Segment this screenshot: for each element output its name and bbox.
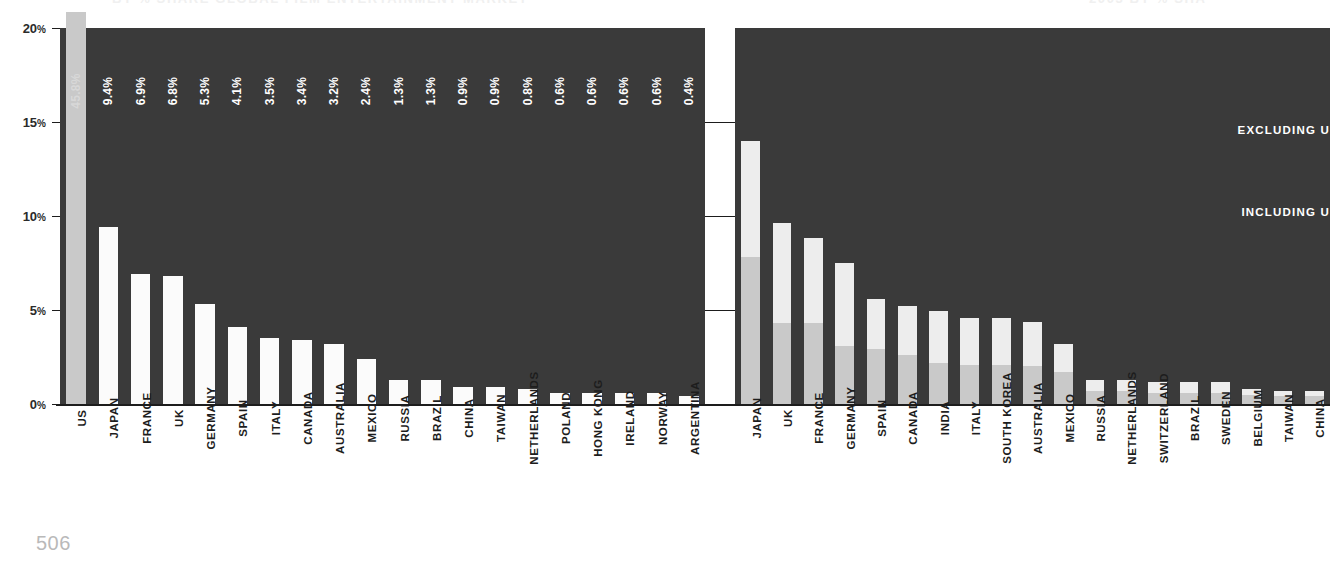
y-axis-tick-5: 5% (30, 303, 46, 318)
bar-value-label: 1.3% (424, 77, 438, 106)
bar-segment-excluding-us (1023, 322, 1042, 366)
category-label-spain: SPAIN (221, 412, 253, 532)
bar-value-label: 1.3% (392, 77, 406, 106)
right-bar-slot (860, 28, 891, 404)
category-label-italy: ITALY (954, 412, 985, 532)
left-chart-plot-area: 45.8%9.4%6.9%6.8%5.3%4.1%3.5%3.4%3.2%2.4… (60, 28, 705, 404)
bar-value-label: 9.4% (101, 77, 115, 106)
category-label-brazil: BRAZIL (415, 412, 447, 532)
bar-segment-including-us (960, 365, 979, 404)
bar-japan (99, 227, 118, 404)
bar-value-label: 0.6% (585, 77, 599, 106)
y-tick-percent-sign: % (37, 306, 46, 317)
category-label-text: HONG KONG (592, 379, 604, 457)
right-bar-slot (735, 28, 766, 404)
left-bar-slot: 9.4% (92, 28, 124, 404)
y-tick-percent-sign: % (37, 24, 46, 35)
page-number: 506 (36, 532, 71, 555)
category-label-text: BRAZIL (1189, 395, 1201, 441)
right-bar-slot (1205, 28, 1236, 404)
category-label-text: POLAND (560, 392, 572, 444)
y-axis-tick-0: 0% (30, 397, 46, 412)
y-tick-percent-sign: % (37, 212, 46, 223)
left-bar-slot: 0.6% (641, 28, 673, 404)
bar-value-label: 5.3% (198, 77, 212, 106)
category-label-text: FRANCE (141, 392, 153, 444)
category-label-taiwan: TAIWAN (1267, 412, 1298, 532)
category-label-canada: CANADA (286, 412, 318, 532)
category-label-text: AUSTRALIA (334, 382, 346, 454)
left-bar-slot: 6.8% (157, 28, 189, 404)
left-chart-category-labels: USJAPANFRANCEUKGERMANYSPAINITALYCANADAAU… (60, 412, 705, 532)
category-label-poland: POLAND (544, 412, 576, 532)
y-axis-tick-20: 20% (23, 21, 46, 36)
right-bar-slot (954, 28, 985, 404)
y-tick-value: 15 (23, 115, 37, 130)
left-bar-slot: 1.3% (415, 28, 447, 404)
category-label-text: RUSSIA (1095, 394, 1107, 441)
category-label-germany: GERMANY (829, 412, 860, 532)
category-label-switzerland: SWITZERLAND (1142, 412, 1173, 532)
category-label-australia: AUSTRALIA (1017, 412, 1048, 532)
category-label-text: INDIA (939, 401, 951, 435)
category-label-text: CANADA (302, 391, 314, 444)
category-label-uk: UK (766, 412, 797, 532)
left-bar-slot: 45.8% (60, 28, 92, 404)
bar-segment-excluding-us (929, 311, 948, 363)
bar-segment-excluding-us (804, 238, 823, 324)
chart-page: BY % SHARE GLOBAL FILM ENTERTAINMENT MAR… (0, 0, 1330, 569)
category-label-text: JAPAN (108, 397, 120, 438)
bar-segment-including-us (741, 257, 760, 404)
y-axis-tick-15: 15% (23, 115, 46, 130)
bar-value-label: 0.8% (521, 77, 535, 106)
bar-segment-excluding-us (741, 141, 760, 258)
category-label-us: US (60, 412, 92, 532)
bar-segment-including-us (867, 349, 886, 404)
left-bar-slot: 0.9% (479, 28, 511, 404)
right-chart-plot-area: EXCLUDING U INCLUDING U (735, 28, 1330, 404)
category-label-italy: ITALY (254, 412, 286, 532)
bar-segment-excluding-us (1180, 382, 1199, 392)
stacked-bar-spain (867, 299, 886, 404)
category-label-text: UK (173, 409, 185, 427)
left-bar-slot: 0.6% (608, 28, 640, 404)
category-label-text: US (76, 409, 88, 426)
category-label-text: TAIWAN (1283, 394, 1295, 442)
category-label-text: MEXICO (1064, 394, 1076, 443)
category-label-mexico: MEXICO (350, 412, 382, 532)
category-label-text: ITALY (270, 401, 282, 435)
category-label-brazil: BRAZIL (1173, 412, 1204, 532)
category-label-south-korea: SOUTH KOREA (986, 412, 1017, 532)
category-label-netherlands: NETHERLANDS (512, 412, 544, 532)
category-label-text: JAPAN (751, 397, 763, 438)
bar-segment-excluding-us (992, 318, 1011, 364)
category-label-france: FRANCE (125, 412, 157, 532)
right-bar-slot (1048, 28, 1079, 404)
bar-segment-excluding-us (1054, 344, 1073, 372)
category-label-text: ARGENTINA (689, 381, 701, 455)
right-bar-slot (1111, 28, 1142, 404)
category-label-text: CANADA (907, 391, 919, 444)
category-label-text: NETHERLANDS (528, 371, 540, 465)
category-label-china: CHINA (447, 412, 479, 532)
category-label-mexico: MEXICO (1048, 412, 1079, 532)
bar-value-label: 3.5% (263, 77, 277, 106)
right-bar-slot (1079, 28, 1110, 404)
bar-segment-including-us (773, 323, 792, 404)
category-label-text: AUSTRALIA (1032, 382, 1044, 454)
right-bar-slot (892, 28, 923, 404)
bar-value-label: 4.1% (230, 77, 244, 106)
y-tick-percent-sign: % (37, 400, 46, 411)
category-label-text: SWITZERLAND (1158, 373, 1170, 463)
bar-value-label: 45.8% (69, 73, 83, 109)
left-bar-slot: 1.3% (383, 28, 415, 404)
bar-segment-excluding-us (835, 263, 854, 346)
category-label-belgium: BELGIUM (1236, 412, 1267, 532)
category-label-australia: AUSTRALIA (318, 412, 350, 532)
stacked-bar-canada (898, 306, 917, 404)
category-label-china: CHINA (1299, 412, 1330, 532)
stacked-bar-italy (960, 318, 979, 404)
bar-value-label: 0.9% (456, 77, 470, 106)
category-label-text: UK (782, 409, 794, 427)
left-bar-slot: 3.2% (318, 28, 350, 404)
